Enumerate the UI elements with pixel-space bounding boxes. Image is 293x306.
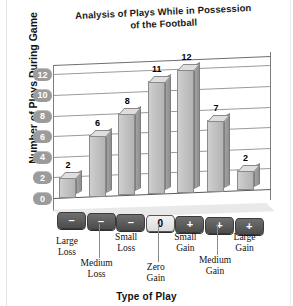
bar-side-face	[106, 128, 112, 193]
x-axis-label-small-loss: SmallLoss	[97, 232, 155, 254]
bar-front-face	[237, 170, 254, 191]
base-block-symbol: +	[187, 219, 193, 230]
x-axis-label-line: Large	[38, 236, 96, 247]
bar[interactable]: 2	[237, 170, 254, 191]
x-axis-label-line: Large	[216, 232, 274, 243]
x-axis-label-line: Loss	[97, 243, 155, 254]
y-axis-tick-10: 10	[33, 89, 52, 102]
y-axis-tick-6: 6	[33, 130, 52, 143]
bar-front-face	[177, 69, 194, 193]
bar-front-face	[89, 135, 106, 197]
x-axis-label-medium-gain: MediumGain	[186, 255, 244, 277]
bar-side-face	[165, 74, 171, 190]
bar-value-label: 8	[112, 96, 142, 106]
x-axis-label-line: Medium	[186, 255, 244, 266]
y-axis-tick-4: 4	[33, 151, 52, 164]
y-axis-tick-8: 8	[33, 110, 52, 123]
y-axis-tick-12: 12	[33, 68, 52, 81]
bar-value-label: 2	[53, 160, 83, 170]
bar-value-label: 2	[231, 153, 261, 163]
bar-value-label: 12	[171, 52, 201, 62]
page-edge-right	[290, 0, 291, 306]
x-axis-label-line: Gain	[156, 243, 214, 254]
base-block-symbol: –	[68, 215, 74, 226]
base-block-large-loss[interactable]: –	[57, 212, 86, 229]
plot-area: 268111272	[53, 52, 271, 210]
x-axis-label-line: Gain	[186, 266, 244, 277]
bar-value-label: 7	[201, 103, 231, 113]
y-axis-tick-0: 0	[33, 192, 52, 205]
y-axis-tick-2: 2	[33, 171, 52, 184]
base-block-symbol: +	[246, 221, 252, 232]
base-block-zero-gain[interactable]: 0	[146, 215, 175, 232]
bar-group: 268111272	[53, 52, 271, 210]
bar-side-face	[194, 62, 200, 189]
bar-front-face	[148, 81, 165, 194]
x-axis-label-large-loss: LargeLoss	[38, 236, 96, 258]
bar-front-face	[59, 177, 76, 198]
bar-side-face	[224, 113, 230, 188]
chart-title: Analysis of Plays While in Possession of…	[56, 1, 272, 35]
x-axis-label-line: Medium	[68, 258, 126, 269]
bar-value-label: 6	[83, 118, 113, 128]
x-axis-label-line: Gain	[216, 243, 274, 254]
x-axis-label-line: Loss	[68, 269, 126, 280]
x-axis-label-zero-gain: ZeroGain	[127, 262, 185, 284]
base-block-symbol: –	[128, 217, 134, 228]
x-axis-label-line: Zero	[127, 262, 185, 273]
x-axis-label-line: Small	[156, 232, 214, 243]
bar-side-face	[135, 106, 141, 191]
x-axis-label-large-gain: LargeGain	[216, 232, 274, 254]
bar[interactable]: 11	[148, 81, 165, 194]
bar-value-label: 11	[142, 64, 172, 74]
page-edge-left	[6, 0, 7, 306]
x-axis-label-line: Loss	[38, 247, 96, 258]
x-axis-label-line: Gain	[127, 273, 185, 284]
x-axis-label-small-gain: SmallGain	[156, 232, 214, 254]
bar[interactable]: 7	[207, 120, 224, 192]
x-axis-title: Type of Play	[0, 291, 293, 302]
x-axis-label-line: Small	[97, 232, 155, 243]
base-block-small-loss[interactable]: –	[116, 214, 145, 231]
base-block-small-gain[interactable]: +	[175, 216, 204, 233]
bar-front-face	[207, 120, 224, 192]
x-axis-label-medium-loss: MediumLoss	[68, 258, 126, 280]
bar[interactable]: 2	[59, 177, 76, 198]
bar[interactable]: 6	[89, 135, 106, 197]
chart-root: Analysis of Plays While in Possession of…	[0, 0, 293, 306]
base-block-medium-loss[interactable]: –	[87, 213, 116, 230]
bar[interactable]: 8	[118, 113, 135, 195]
bar-front-face	[118, 113, 135, 195]
bar[interactable]: 12	[177, 69, 194, 193]
y-axis-title: Number of Plays During Game	[27, 3, 39, 173]
